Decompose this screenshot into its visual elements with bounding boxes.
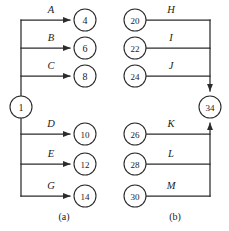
edge-l: L: [146, 148, 210, 164]
caption-a: (a): [58, 211, 69, 223]
edge-label-j: J: [169, 60, 175, 71]
edge-label-l: L: [167, 148, 174, 159]
node-20[interactable]: 20: [124, 9, 146, 31]
node-26[interactable]: 26: [124, 123, 146, 145]
node-28-label: 28: [131, 160, 141, 170]
caption-b: (b): [169, 211, 181, 223]
edge-label-i: I: [168, 32, 173, 43]
node-10-label: 10: [81, 130, 91, 140]
edge-label-h: H: [166, 4, 176, 15]
edge-label-k: K: [166, 118, 175, 129]
node-28[interactable]: 28: [124, 153, 146, 175]
edge-b: B: [21, 32, 70, 48]
node-30-label: 30: [131, 192, 141, 202]
edge-j: J: [146, 60, 210, 76]
node-1-label: 1: [19, 102, 24, 113]
edge-label-c: C: [47, 60, 55, 71]
node-12[interactable]: 12: [74, 153, 96, 175]
edge-label-d: D: [46, 118, 55, 129]
edge-h: H: [146, 4, 210, 20]
node-22-label: 22: [131, 44, 140, 54]
node-24[interactable]: 24: [124, 65, 146, 87]
edge-label-b: B: [48, 32, 55, 43]
diagram-b-group: H I J K L: [124, 4, 221, 223]
edge-e: E: [21, 148, 70, 164]
edge-label-e: E: [47, 148, 55, 159]
edge-g: G: [21, 180, 70, 196]
figure-canvas: A B C D E: [0, 0, 229, 231]
node-26-label: 26: [131, 130, 141, 140]
node-10[interactable]: 10: [74, 123, 96, 145]
edge-m: M: [146, 180, 210, 196]
diagram-a-group: A B C D E: [10, 4, 96, 223]
edge-a: A: [21, 4, 70, 20]
node-14[interactable]: 14: [74, 185, 96, 207]
edge-d: D: [21, 118, 70, 134]
edge-k: K: [146, 118, 210, 134]
node-14-label: 14: [81, 192, 91, 202]
node-24-label: 24: [131, 72, 141, 82]
node-6[interactable]: 6: [74, 37, 96, 59]
node-30[interactable]: 30: [124, 185, 146, 207]
edge-label-m: M: [166, 180, 177, 191]
node-20-label: 20: [131, 16, 141, 26]
network-diagram-figure: A B C D E: [0, 0, 229, 231]
node-22[interactable]: 22: [124, 37, 146, 59]
node-4[interactable]: 4: [74, 9, 96, 31]
node-1[interactable]: 1: [10, 96, 32, 118]
node-12-label: 12: [81, 160, 90, 170]
edge-c: C: [21, 60, 70, 76]
edge-i: I: [146, 32, 210, 48]
node-8-label: 8: [83, 71, 88, 82]
node-4-label: 4: [83, 15, 88, 26]
edge-label-a: A: [47, 4, 55, 15]
node-6-label: 6: [83, 43, 88, 54]
node-8[interactable]: 8: [74, 65, 96, 87]
node-34[interactable]: 34: [199, 96, 221, 118]
node-34-label: 34: [206, 103, 216, 113]
edge-label-g: G: [47, 180, 55, 191]
